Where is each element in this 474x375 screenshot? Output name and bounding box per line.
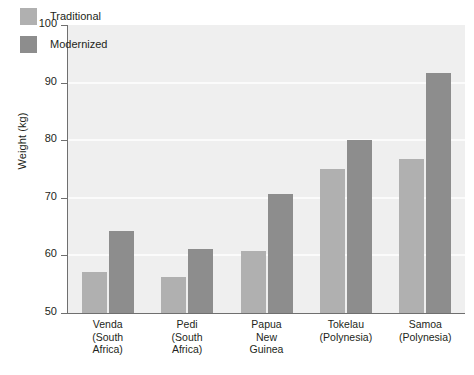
legend-label-traditional: Traditional xyxy=(50,10,101,22)
bar-traditional xyxy=(399,159,424,313)
y-tick-label: 50 xyxy=(45,305,57,317)
y-tick-label: 90 xyxy=(45,75,57,87)
bar-modernized xyxy=(268,194,293,313)
x-axis-label-line: Africa) xyxy=(68,343,147,356)
x-axis-label-line: Africa) xyxy=(147,343,226,356)
x-axis-label-line: (South xyxy=(147,331,226,344)
bar-traditional xyxy=(161,277,186,313)
x-axis-label: PapuaNewGuinea xyxy=(227,318,306,356)
bar-modernized xyxy=(109,231,134,313)
legend-item-traditional: Traditional xyxy=(20,3,190,29)
chart-legend: Traditional Modernized xyxy=(20,3,190,59)
x-axis-label: Venda(SouthAfrica) xyxy=(68,318,147,356)
x-axis-label-line: Tokelau xyxy=(306,318,385,331)
x-axis-label-line: New xyxy=(227,331,306,344)
bar-traditional xyxy=(241,251,266,313)
bar-traditional xyxy=(320,169,345,313)
x-axis-label-line: Guinea xyxy=(227,343,306,356)
x-axis-label-line: Papua xyxy=(227,318,306,331)
bar-modernized xyxy=(347,140,372,313)
x-axis-label-line: Samoa xyxy=(386,318,465,331)
bar-chart: Weight (kg) 1009080706050 Traditional Mo… xyxy=(0,0,474,375)
x-axis-label-line: (South xyxy=(68,331,147,344)
bar-traditional xyxy=(82,272,107,313)
x-axis-label-line: Venda xyxy=(68,318,147,331)
legend-swatch-modernized xyxy=(20,36,37,53)
x-axis-label: Samoa(Polynesia) xyxy=(386,318,465,343)
x-axis-label: Pedi(SouthAfrica) xyxy=(147,318,226,356)
y-tick-label: 70 xyxy=(45,190,57,202)
x-axis-label: Tokelau(Polynesia) xyxy=(306,318,385,343)
bar-modernized xyxy=(188,249,213,313)
x-axis-label-line: (Polynesia) xyxy=(386,331,465,344)
legend-item-modernized: Modernized xyxy=(20,31,190,57)
x-axis-labels: Venda(SouthAfrica)Pedi(SouthAfrica)Papua… xyxy=(68,318,465,370)
x-axis-baseline xyxy=(67,313,465,314)
bars xyxy=(68,25,465,313)
x-axis-label-line: Pedi xyxy=(147,318,226,331)
y-tick-label: 60 xyxy=(45,247,57,259)
bar-modernized xyxy=(426,73,451,313)
legend-label-modernized: Modernized xyxy=(50,38,107,50)
y-tick-label: 80 xyxy=(45,132,57,144)
plot-area xyxy=(68,25,465,313)
x-axis-label-line: (Polynesia) xyxy=(306,331,385,344)
legend-swatch-traditional xyxy=(20,8,37,25)
